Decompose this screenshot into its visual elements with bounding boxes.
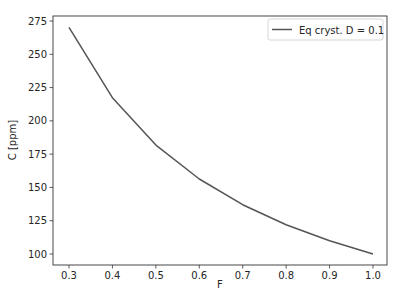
x-tick-label: 1.0	[365, 270, 381, 281]
y-tick-label: 125	[28, 215, 47, 226]
y-tick-label: 250	[28, 49, 47, 60]
y-tick-label: 225	[28, 82, 47, 93]
y-tick-label: 200	[28, 115, 47, 126]
x-tick-label: 0.6	[191, 270, 207, 281]
x-axis-label: F	[217, 279, 223, 290]
y-tick-label: 275	[28, 16, 47, 27]
plot-area	[53, 16, 387, 265]
y-axis-label: C [ppm]	[7, 120, 18, 160]
legend-entry-label: Eq cryst. D = 0.1	[299, 25, 384, 36]
y-axis: 100125150175200225250275	[28, 16, 53, 260]
x-tick-label: 0.8	[278, 270, 294, 281]
x-tick-label: 0.7	[235, 270, 251, 281]
x-tick-label: 0.5	[148, 270, 164, 281]
y-tick-label: 175	[28, 149, 47, 160]
x-tick-label: 0.9	[322, 270, 338, 281]
axes-frame	[53, 16, 387, 265]
line-chart: 0.30.40.50.60.70.80.91.0 100125150175200…	[0, 0, 402, 305]
y-tick-label: 150	[28, 182, 47, 193]
x-tick-label: 0.3	[61, 270, 77, 281]
y-tick-label: 100	[28, 249, 47, 260]
legend: Eq cryst. D = 0.1	[268, 19, 384, 40]
x-tick-label: 0.4	[104, 270, 120, 281]
